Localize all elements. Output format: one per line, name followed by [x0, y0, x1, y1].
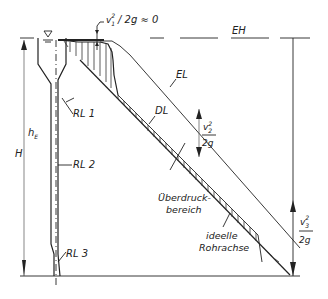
velocity-head-2-denominator: 2g — [202, 138, 214, 148]
rl3-label: RL 3 — [66, 248, 88, 259]
hydraulic-diagram: EH H hE — [0, 0, 328, 299]
ideal-pipe-axis — [80, 60, 290, 275]
rl1-label: RL 1 — [73, 108, 95, 119]
velocity-head-3-numerator: v23 — [300, 214, 309, 229]
rl1-cross — [66, 98, 74, 102]
energy-line-el — [100, 41, 300, 248]
total-head-label: H — [15, 148, 23, 159]
el-leader — [170, 79, 176, 87]
inlet-hatch — [60, 40, 118, 95]
rl2-label: RL 2 — [73, 159, 95, 170]
reservoir-tank — [38, 38, 66, 276]
outlet-hatch — [268, 252, 279, 262]
velocity-head-2-numerator: v22 — [203, 120, 212, 134]
pipe-axis-label-1: ideelle — [206, 230, 238, 241]
pipe-axis-label-2: Rohrachse — [199, 242, 249, 253]
dl-label: DL — [155, 105, 168, 116]
water-level-icon — [43, 31, 53, 42]
pipe-axis-leader — [223, 213, 230, 227]
velocity-head-1-label: v21/ 2g ≈ 0 — [106, 12, 158, 27]
rl1-leader — [62, 98, 73, 114]
velocity-head-2-dimension — [196, 109, 202, 157]
entry-height-label: hE — [28, 127, 38, 140]
eh-label: EH — [232, 25, 246, 36]
rl3-leader — [58, 252, 66, 262]
dl-leader — [149, 116, 155, 124]
overpressure-label-2: bereich — [166, 204, 202, 215]
velocity-head-1-marker — [95, 22, 104, 50]
pressure-line-dl — [118, 95, 262, 262]
overpressure-label-1: Überdruck- — [158, 192, 211, 203]
el-label: EL — [176, 69, 188, 80]
velocity-head-3-denominator: 2g — [299, 235, 311, 245]
